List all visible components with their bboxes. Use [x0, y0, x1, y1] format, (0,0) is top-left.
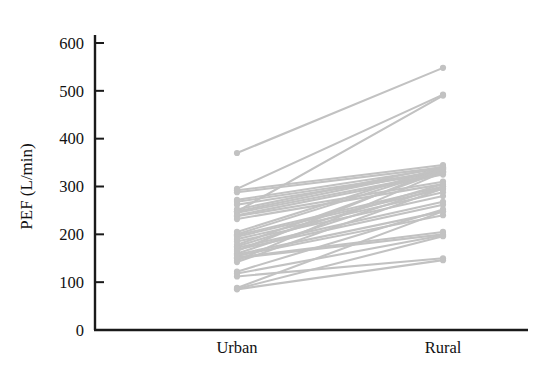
rural-point: [440, 185, 446, 191]
pef-slope-chart-figure: 0100200300400500600UrbanRuralPEF (L/min): [0, 0, 552, 379]
y-tick-label: 300: [59, 177, 84, 196]
y-tick-label: 500: [59, 82, 84, 101]
rural-point: [440, 93, 446, 99]
rural-point: [440, 233, 446, 239]
urban-point: [234, 150, 240, 156]
x-tick-label-urban: Urban: [216, 338, 257, 357]
y-tick-label: 600: [59, 34, 84, 53]
urban-point: [234, 273, 240, 279]
urban-point: [234, 286, 240, 292]
urban-point: [234, 259, 240, 265]
y-tick-label: 400: [59, 129, 84, 148]
rural-point: [440, 65, 446, 71]
y-tick-label: 200: [59, 225, 84, 244]
urban-point: [234, 189, 240, 195]
rural-point: [440, 257, 446, 263]
y-tick-label: 0: [76, 321, 84, 340]
chart-canvas: 0100200300400500600UrbanRuralPEF (L/min): [0, 0, 552, 379]
rural-point: [440, 208, 446, 214]
rural-point: [440, 169, 446, 175]
x-tick-label-rural: Rural: [425, 338, 462, 357]
rural-point: [440, 193, 446, 199]
y-axis-title: PEF (L/min): [17, 143, 36, 229]
urban-point: [234, 216, 240, 222]
y-tick-label: 100: [59, 273, 84, 292]
